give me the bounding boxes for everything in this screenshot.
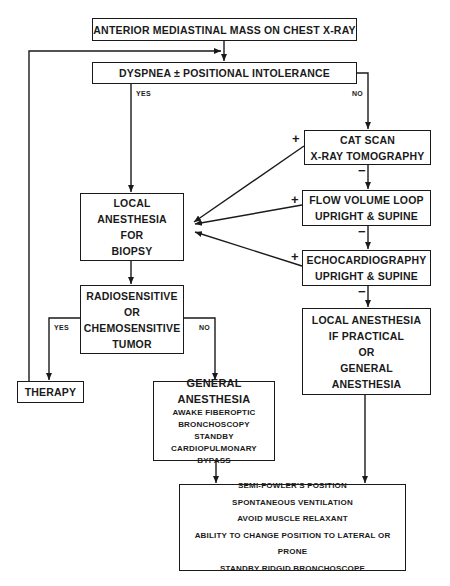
edge-label-plus: + [291, 193, 299, 206]
node-line: FOR [121, 227, 144, 243]
node-radiosensitive-tumor: RADIOSENSITIVE OR CHEMOSENSITIVE TUMOR [80, 285, 184, 354]
node-label: THERAPY [25, 384, 77, 400]
node-line: TUMOR [112, 336, 152, 352]
edge-label-yes: YES [54, 324, 69, 331]
node-anterior-mediastinal-mass: ANTERIOR MEDIASTINAL MASS ON CHEST X-RAY [92, 18, 357, 41]
node-line: GENERAL [340, 360, 393, 376]
node-line: AWAKE FIBEROPTIC [172, 407, 255, 419]
node-label: DYSPNEA ± POSITIONAL INTOLERANCE [119, 65, 330, 81]
node-echocardiography: ECHOCARDIOGRAPHY UPRIGHT & SUPINE [302, 250, 431, 286]
node-line: OR [124, 304, 140, 320]
node-line: SPONTANEOUS VENTILATION [232, 495, 353, 512]
node-line: X-RAY TOMOGRAPHY [311, 148, 425, 164]
node-line: LOCAL ANESTHESIA [312, 312, 421, 328]
node-line: UPRIGHT & SUPINE [315, 268, 418, 284]
node-label: ANTERIOR MEDIASTINAL MASS ON CHEST X-RAY [93, 22, 355, 38]
edge-label-minus: − [358, 285, 366, 298]
node-line: LOCAL [113, 195, 150, 211]
node-line: AVOID MUSCLE RELAXANT [237, 511, 348, 528]
node-line: FLOW VOLUME LOOP [309, 192, 424, 208]
node-line: STANDBY RIDGID BRONCHOSCOPE [220, 561, 365, 578]
node-line: ANESTHESIA [97, 211, 167, 227]
node-cat-scan: CAT SCAN X-RAY TOMOGRAPHY [304, 130, 431, 165]
node-title: GENERAL ANESTHESIA [154, 375, 274, 407]
node-line: IF PRACTICAL [329, 328, 404, 344]
node-line: CHEMOSENSITIVE [84, 320, 181, 336]
edge-label-plus: + [292, 132, 300, 145]
node-anesthesia-precautions: SEMI-FOWLER'S POSITION SPONTANEOUS VENTI… [179, 484, 406, 571]
edge-label-plus: + [291, 250, 299, 263]
node-line: BRONCHOSCOPY [178, 419, 250, 431]
node-line: ANESTHESIA [332, 376, 402, 392]
node-line: OR [358, 344, 374, 360]
node-general-anesthesia: GENERAL ANESTHESIA AWAKE FIBEROPTIC BRON… [153, 381, 275, 461]
node-line: SEMI-FOWLER'S POSITION [238, 478, 347, 495]
node-line: ECHOCARDIOGRAPHY [307, 252, 427, 268]
node-therapy: THERAPY [17, 381, 84, 403]
node-line: UPRIGHT & SUPINE [315, 208, 418, 224]
node-line: CAT SCAN [340, 132, 395, 148]
node-local-anesthesia-if-practical: LOCAL ANESTHESIA IF PRACTICAL OR GENERAL… [302, 308, 431, 395]
edge-label-minus: − [358, 164, 366, 177]
node-line: STANDBY [194, 431, 233, 443]
edge-label-yes: YES [136, 90, 151, 97]
edge-label-no: NO [352, 90, 363, 97]
node-line: BIOPSY [112, 243, 153, 259]
node-line: RADIOSENSITIVE [86, 288, 177, 304]
node-line: ABILITY TO CHANGE POSITION TO LATERAL OR… [180, 528, 405, 561]
edge-label-minus: − [358, 225, 366, 238]
node-local-anesthesia-for-biopsy: LOCAL ANESTHESIA FOR BIOPSY [80, 193, 184, 261]
node-flow-volume-loop: FLOW VOLUME LOOP UPRIGHT & SUPINE [302, 190, 431, 226]
edge-label-no: NO [199, 324, 210, 331]
node-dyspnea: DYSPNEA ± POSITIONAL INTOLERANCE [92, 62, 357, 84]
node-line: CARDIOPULMONARY BYPASS [154, 443, 274, 467]
